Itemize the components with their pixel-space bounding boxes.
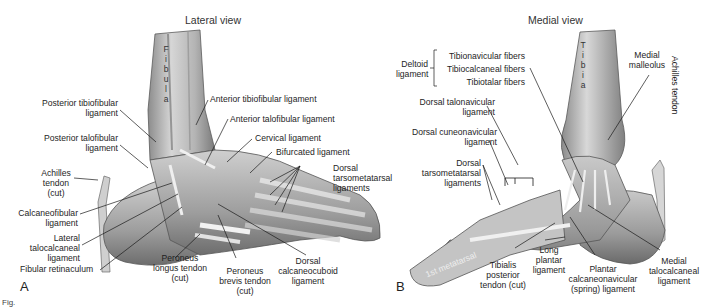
label-posterior-tibiofibular-ligament: Posterior tibiofibular ligament	[42, 98, 118, 118]
label-dorsal-cuneonavicular-ligament: Dorsal cuneonavicular ligament	[392, 127, 497, 147]
label-bifurcated-ligament: Bifurcated ligament	[276, 147, 350, 157]
label-dorsal-calcaneocuboid-ligament: Dorsal calcaneocuboid ligament	[268, 256, 348, 286]
panel-letter-b: B	[396, 279, 405, 294]
label-anterior-talofibular-ligament: Anterior talofibular ligament	[230, 114, 335, 124]
label-achilles-tendon-cut: Achilles tendon (cut)	[36, 168, 76, 198]
label-plantar-calcaneonavicular-spring-ligament: Plantar calcaneonavicular (spring) ligam…	[562, 264, 644, 294]
label-tibialis-posterior-tendon-cut: Tibialis posterior tendon (cut)	[474, 260, 532, 290]
label-medial-malleolus: Medial malleolus	[618, 50, 676, 70]
label-cervical-ligament: Cervical ligament	[255, 133, 321, 143]
label-tibionavicular-fibers: Tibionavicular fibers	[438, 51, 525, 61]
figure-mark: Fig.	[2, 298, 15, 307]
label-tibiocalcaneal-fibers: Tibiocalcaneal fibers	[434, 64, 525, 74]
label-deltoid-ligament: Deltoid ligament	[396, 59, 428, 79]
panel-letter-a: A	[20, 279, 29, 294]
panel-medial-view: Medial view T i b i a Deltoid ligament T…	[390, 0, 720, 307]
label-fibular-retinaculum: Fibular retinaculum	[20, 264, 93, 274]
label-calcaneofibular-ligament: Calcaneofibular ligament	[18, 208, 78, 228]
view-title: Medial view	[528, 14, 583, 26]
label-medial-talocalcaneal-ligament: Medial talocalcaneal ligament	[642, 256, 706, 286]
label-achilles-tendon: Achilles tendon	[670, 56, 680, 114]
tibia-bone-label: T i b i a	[579, 40, 587, 90]
fibula-bone-label: F i b u l a	[162, 44, 170, 104]
label-dorsal-talonavicular-ligament: Dorsal talonavicular ligament	[400, 97, 495, 117]
label-dorsal-tarsometatarsal-ligaments: Dorsal tarsometatarsal ligaments	[394, 158, 481, 188]
view-title: Lateral view	[185, 14, 241, 26]
label-tibiotalar-fibers: Tibiotalar fibers	[438, 77, 525, 87]
label-posterior-talofibular-ligament: Posterior talofibular ligament	[44, 133, 118, 153]
panel-lateral-view: Lateral view F i b u l a Posterior tibio…	[0, 0, 390, 307]
label-lateral-talocalcaneal-ligament: Lateral talocalcaneal ligament	[30, 233, 80, 263]
label-anterior-tibiofibular-ligament: Anterior tibiofibular ligament	[210, 94, 317, 104]
label-dorsal-tarsometatarsal-ligaments: Dorsal tarsometatarsal ligaments	[333, 163, 392, 193]
